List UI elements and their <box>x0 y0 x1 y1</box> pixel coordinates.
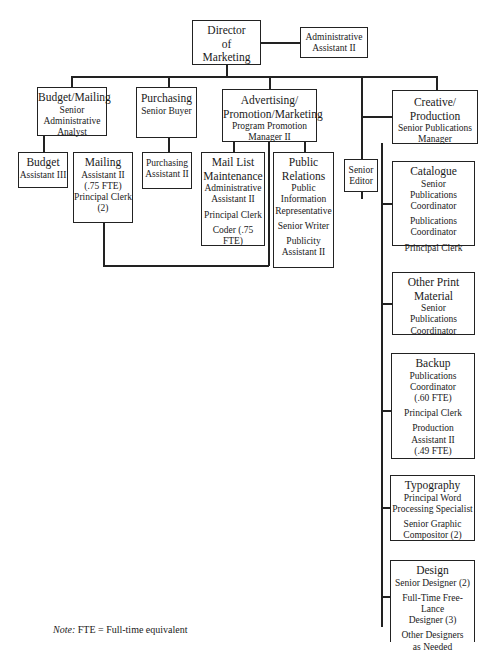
role-label: Coordinator <box>393 227 474 238</box>
connector <box>168 137 170 152</box>
role-label: Senior <box>38 105 106 116</box>
typography-box: Typography Principal Word Processing Spe… <box>390 475 475 541</box>
role-label: Principal Clerk <box>202 210 264 221</box>
role-label: Processing Specialist <box>391 504 474 515</box>
role-label: as Needed <box>391 642 474 653</box>
unit-title: Budget/Mailing <box>38 91 106 105</box>
role-label: Coordinator <box>393 201 474 212</box>
catalogue-box: Catalogue Senior Publications Coordinato… <box>392 161 475 246</box>
role-label: Purchasing <box>143 158 191 169</box>
role-label: Assistant II <box>274 247 333 258</box>
unit-title: Mail List <box>202 156 264 170</box>
role-label: Principal Clerk <box>74 192 132 203</box>
unit-title: Catalogue <box>393 165 474 179</box>
unit-title: Relations <box>274 170 333 184</box>
role-label: Other Designers <box>391 630 474 641</box>
note-text: FTE = Full-time equivalent <box>75 624 187 635</box>
role-label: Principal Clerk <box>392 408 474 419</box>
connector <box>103 222 105 266</box>
role-label: Compositor (2) <box>391 530 474 541</box>
other-print-box: Other Print Material Senior Publications… <box>392 272 475 335</box>
role-label: Principal Clerk <box>393 243 474 254</box>
role-label: Publications <box>392 371 474 382</box>
senior-editor-box: Senior Editor <box>344 159 378 192</box>
role-label: Publications <box>393 190 474 201</box>
role-label: Coordinator <box>392 382 474 393</box>
role-label: Senior Buyer <box>137 106 196 117</box>
role-label: Assistant III <box>19 170 67 181</box>
role-label: Senior <box>345 165 377 176</box>
role-label: Information <box>274 194 333 205</box>
role-label: (.49 FTE) <box>392 446 474 457</box>
unit-title: Maintenance <box>202 170 264 184</box>
role-label: Administrative <box>202 183 264 194</box>
role-label: Manager <box>393 134 477 145</box>
unit-title: Mailing <box>74 156 132 170</box>
role-label: Coordinator <box>393 326 474 337</box>
role-label: Full-Time Free-Lance <box>391 593 474 615</box>
role-label: Senior <box>393 303 474 314</box>
connector <box>436 76 438 90</box>
role-label: Analyst <box>38 127 106 138</box>
role-label: (2) <box>74 203 132 214</box>
role-label: Representative <box>274 206 333 217</box>
purchasing-box: Purchasing Senior Buyer <box>136 87 197 138</box>
director-title: Marketing <box>193 51 260 65</box>
role-label: Senior Graphic <box>391 519 474 530</box>
role-label: Publications <box>393 314 474 325</box>
unit-title: Design <box>391 564 474 578</box>
mail-list-box: Mail List Maintenance Administrative Ass… <box>201 152 265 246</box>
role-label: Assistant II <box>301 43 367 54</box>
advertising-box: Advertising/ Promotion/Marketing Program… <box>222 89 317 142</box>
role-label: Publicity <box>274 236 333 247</box>
unit-title: Typography <box>391 479 474 493</box>
connector <box>268 141 270 266</box>
director-title: of <box>193 38 260 52</box>
role-label: Manager II <box>223 132 316 143</box>
public-relations-box: Public Relations Public Information Repr… <box>273 152 334 268</box>
unit-title: Advertising/ <box>223 94 316 108</box>
budget-box: Budget Assistant III <box>18 152 68 188</box>
admin-assistant-box: Administrative Assistant II <box>300 27 368 58</box>
note-label: Note: <box>53 624 75 635</box>
role-label: Program Promotion <box>223 121 316 132</box>
role-label: Assistant II <box>143 169 191 180</box>
role-label: Administrative <box>301 32 367 43</box>
budget-mailing-box: Budget/Mailing Senior Administrative Ana… <box>37 87 107 136</box>
footnote: Note: FTE = Full-time equivalent <box>53 624 188 635</box>
connector <box>71 76 437 78</box>
director-title: Director <box>193 24 260 38</box>
role-label: Assistant II <box>202 194 264 205</box>
unit-title: Other Print <box>393 276 474 290</box>
director-box: Director of Marketing <box>192 20 261 65</box>
role-label: Senior Writer <box>274 221 333 232</box>
role-label: Senior <box>393 179 474 190</box>
role-label: Senior Publications <box>393 123 477 134</box>
unit-title: Backup <box>392 357 474 371</box>
connector <box>381 203 392 205</box>
role-label: Designer (3) <box>391 615 474 626</box>
design-box: Design Senior Designer (2) Full-Time Fre… <box>390 560 475 642</box>
role-label: Senior Designer (2) <box>391 578 474 589</box>
role-label: (.60 FTE) <box>392 393 474 404</box>
role-label: Assistant II <box>392 435 474 446</box>
unit-title: Promotion/Marketing <box>223 108 316 122</box>
purchasing-assistant-box: Purchasing Assistant II <box>142 152 192 189</box>
connector <box>269 76 271 89</box>
connector <box>168 76 170 87</box>
mailing-box: Mailing Assistant II (.75 FTE) Principal… <box>73 152 133 223</box>
role-label: Administrative <box>38 116 106 127</box>
connector <box>103 265 269 267</box>
role-label: (.75 FTE) <box>74 181 132 192</box>
role-label: Coder (.75 FTE) <box>202 225 264 247</box>
connector <box>381 303 392 305</box>
role-label: Public <box>274 183 333 194</box>
role-label: Production <box>392 423 474 434</box>
connector <box>361 116 392 118</box>
role-label: Editor <box>345 176 377 187</box>
unit-title: Material <box>393 290 474 304</box>
role-label: Principal Word <box>391 493 474 504</box>
backup-box: Backup Publications Coordinator (.60 FTE… <box>391 353 475 459</box>
unit-title: Creative/ <box>393 96 477 110</box>
unit-title: Purchasing <box>137 92 196 106</box>
